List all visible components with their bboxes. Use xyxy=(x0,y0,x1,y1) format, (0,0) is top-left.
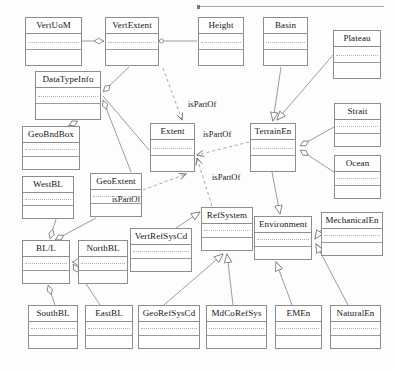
class-box-vertrefsyscd[interactable]: VertRefSysCd xyxy=(130,228,192,272)
lbl-ispartof-terrainen-extent: isPartOf xyxy=(203,129,231,139)
class-operations-compartment xyxy=(264,49,307,65)
class-name: NorthBL xyxy=(79,241,127,256)
class-operations-compartment xyxy=(335,133,380,147)
class-operations-compartment xyxy=(79,270,127,284)
class-attributes-compartment xyxy=(334,46,380,62)
class-operations-compartment xyxy=(139,335,199,349)
class-box-naturalen[interactable]: NaturalEn xyxy=(330,305,381,349)
class-operations-compartment xyxy=(255,246,311,260)
class-name: DataTypeInfo xyxy=(36,72,100,87)
class-box-vertuom[interactable]: VertUoM xyxy=(25,17,82,66)
class-box-basin[interactable]: Basin xyxy=(263,17,308,66)
class-operations-compartment xyxy=(23,156,79,170)
class-name: EMEn xyxy=(276,306,321,321)
class-box-northbl[interactable]: NorthBL xyxy=(78,240,128,284)
class-name: GeoBndBox xyxy=(23,127,79,142)
class-attributes-compartment xyxy=(23,256,69,270)
class-operations-compartment xyxy=(207,335,266,349)
top-rule-artifact xyxy=(198,6,384,7)
class-name: Extent xyxy=(151,124,194,139)
class-box-refsystem[interactable]: RefSystem xyxy=(201,207,253,251)
class-operations-compartment xyxy=(131,258,191,272)
class-attributes-compartment xyxy=(251,139,295,155)
class-attributes-compartment xyxy=(335,171,380,185)
class-box-height[interactable]: Height xyxy=(198,17,244,66)
class-attributes-compartment xyxy=(151,139,194,155)
class-name: Environment xyxy=(255,217,311,232)
class-attributes-compartment xyxy=(23,142,79,156)
class-attributes-compartment xyxy=(36,87,100,103)
class-box-westbl[interactable]: WestBL xyxy=(22,176,74,219)
class-box-geobndbox[interactable]: GeoBndBox xyxy=(22,126,80,170)
class-name: SouthBL xyxy=(29,306,77,321)
class-attributes-compartment xyxy=(322,228,382,242)
class-operations-compartment xyxy=(86,335,132,349)
class-name: VertExtent xyxy=(106,18,158,33)
class-operations-compartment xyxy=(23,205,73,218)
class-attributes-compartment xyxy=(26,33,81,49)
class-name: WestBL xyxy=(23,177,73,192)
class-box-plateau[interactable]: Plateau xyxy=(333,30,381,79)
class-operations-compartment xyxy=(331,335,380,349)
class-operations-compartment xyxy=(251,155,295,171)
class-operations-compartment xyxy=(199,49,243,65)
class-attributes-compartment xyxy=(106,33,158,49)
class-name: GeoExtent xyxy=(91,174,141,189)
class-operations-compartment xyxy=(276,335,321,349)
class-box-georefsyscd[interactable]: GeoRefSysCd xyxy=(138,305,200,349)
class-operations-compartment xyxy=(26,49,81,65)
class-operations-compartment xyxy=(335,185,380,199)
class-box-vertextent[interactable]: VertExtent xyxy=(105,17,159,66)
class-box-eastbl[interactable]: EastBL xyxy=(85,305,133,349)
class-name: Strait xyxy=(335,104,380,119)
class-attributes-compartment xyxy=(139,321,199,335)
class-attributes-compartment xyxy=(86,321,132,335)
class-name: MechanicalEn xyxy=(322,213,382,228)
class-attributes-compartment xyxy=(207,321,266,335)
class-operations-compartment xyxy=(151,155,194,171)
class-box-mechanicalen[interactable]: MechanicalEn xyxy=(321,212,383,256)
class-diagram-canvas: VertUoMVertExtentHeightBasinPlateauDataT… xyxy=(0,0,395,372)
class-box-terrainen[interactable]: TerrainEn xyxy=(250,123,296,172)
class-name: MdCoRefSys xyxy=(207,306,266,321)
class-box-ocean[interactable]: Ocean xyxy=(334,155,381,199)
class-attributes-compartment xyxy=(23,192,73,205)
class-box-extent[interactable]: Extent xyxy=(150,123,195,172)
class-operations-compartment xyxy=(322,242,382,256)
class-operations-compartment xyxy=(334,62,380,78)
class-box-emen[interactable]: EMEn xyxy=(275,305,322,349)
class-box-datatypeinfo[interactable]: DataTypeInfo xyxy=(35,71,101,120)
class-name: Plateau xyxy=(334,31,380,46)
class-name: VertUoM xyxy=(26,18,81,33)
class-box-bl-l[interactable]: BL/L xyxy=(22,240,70,284)
lbl-ispartof-geoextent-extent: isPartOf xyxy=(112,194,140,204)
class-attributes-compartment xyxy=(199,33,243,49)
class-name: EastBL xyxy=(86,306,132,321)
class-attributes-compartment xyxy=(131,244,191,258)
class-name: NaturalEn xyxy=(331,306,380,321)
class-name: GeoRefSysCd xyxy=(139,306,199,321)
class-operations-compartment xyxy=(36,103,100,119)
class-box-strait[interactable]: Strait xyxy=(334,103,381,147)
class-box-environment[interactable]: Environment xyxy=(254,216,312,260)
class-attributes-compartment xyxy=(335,119,380,133)
class-box-mdcorefsys[interactable]: MdCoRefSys xyxy=(206,305,267,349)
class-name: Height xyxy=(199,18,243,33)
class-operations-compartment xyxy=(29,335,77,349)
class-box-southbl[interactable]: SouthBL xyxy=(28,305,78,349)
class-attributes-compartment xyxy=(331,321,380,335)
class-name: Basin xyxy=(264,18,307,33)
class-name: RefSystem xyxy=(202,208,252,223)
class-attributes-compartment xyxy=(264,33,307,49)
class-operations-compartment xyxy=(23,270,69,284)
class-operations-compartment xyxy=(91,203,141,217)
class-operations-compartment xyxy=(202,237,252,251)
class-name: BL/L xyxy=(23,241,69,256)
class-attributes-compartment xyxy=(255,232,311,246)
class-name: VertRefSysCd xyxy=(131,229,191,244)
class-attributes-compartment xyxy=(79,256,127,270)
class-attributes-compartment xyxy=(202,223,252,237)
lbl-ispartof-refsystem-extent: isPartOf xyxy=(212,172,240,182)
class-operations-compartment xyxy=(106,49,158,65)
class-name: Ocean xyxy=(335,156,380,171)
